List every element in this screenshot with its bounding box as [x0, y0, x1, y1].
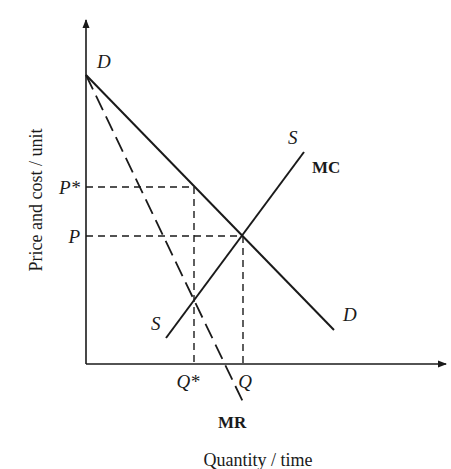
mr-curve [86, 75, 243, 402]
demand-curve [86, 75, 334, 330]
supply-label-bottom: S [151, 313, 161, 334]
p-label: P [67, 226, 80, 247]
mc-label: MC [312, 158, 340, 177]
y-axis-title: Price and cost / unit [26, 129, 46, 272]
supply-label-top: S [288, 127, 298, 148]
demand-label-bottom: D [342, 304, 357, 325]
demand-label-top: D [96, 51, 111, 72]
q-star-label: Q* [176, 371, 200, 392]
mr-label: MR [218, 413, 247, 432]
x-axis-title: Quantity / time [204, 450, 313, 469]
p-star-label: P* [58, 177, 81, 198]
monopoly-diagram: D D S S MC MR P* P Q* Q Quantity / time … [0, 0, 451, 469]
q-label: Q [238, 371, 252, 392]
